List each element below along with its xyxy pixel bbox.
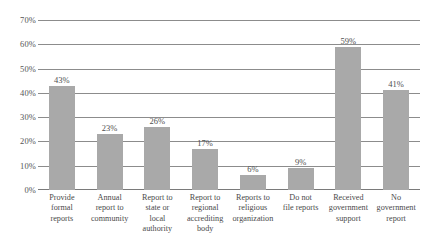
- x-axis-tick-label-line: community: [86, 214, 134, 224]
- y-axis-tick-label: 20%: [2, 137, 36, 146]
- bar[interactable]: [192, 149, 218, 190]
- y-axis-tick-label: 60%: [2, 40, 36, 49]
- bar-value-label: 9%: [295, 158, 306, 167]
- bar-chart: 0%10%20%30%40%50%60%70% 43%23%26%17%6%9%…: [0, 0, 439, 250]
- y-axis-tick-label: 0%: [2, 186, 36, 195]
- bar[interactable]: [288, 168, 314, 190]
- bar-slot: 9%: [277, 20, 325, 190]
- y-axis-tick-label: 50%: [2, 65, 36, 74]
- x-axis-tick-label: Nogovernmentreport: [372, 193, 420, 224]
- x-axis-tick-label-line: No: [372, 193, 420, 203]
- x-axis-tick-label: Report toregionalaccreditingbody: [181, 193, 229, 235]
- y-axis-tick-label: 30%: [2, 113, 36, 122]
- x-axis-tick-label-line: religious: [229, 203, 277, 213]
- x-axis-tick-label-line: Report to: [181, 193, 229, 203]
- bar[interactable]: [240, 175, 266, 190]
- y-axis-tick-label: 70%: [2, 16, 36, 25]
- x-axis-tick-label-line: support: [325, 214, 373, 224]
- bar-value-label: 41%: [388, 80, 404, 89]
- bar-slot: 43%: [38, 20, 86, 190]
- x-axis-tick-label-line: government: [325, 203, 373, 213]
- x-axis-tick-label-line: report to: [86, 203, 134, 213]
- bar-slot: 59%: [325, 20, 373, 190]
- x-axis-tick-label-line: local: [134, 214, 182, 224]
- bar-value-label: 17%: [197, 139, 213, 148]
- x-axis-tick-label-line: accrediting: [181, 214, 229, 224]
- x-axis-tick-label: Annualreport tocommunity: [86, 193, 134, 224]
- bar[interactable]: [383, 90, 409, 190]
- bar-value-label: 59%: [341, 37, 357, 46]
- x-axis-tick-label-line: report: [372, 214, 420, 224]
- bar[interactable]: [335, 47, 361, 190]
- x-axis-tick-label-line: Do not: [277, 193, 325, 203]
- x-axis-tick-label-line: Received: [325, 193, 373, 203]
- bar-slot: 41%: [372, 20, 420, 190]
- x-axis-tick-label-line: regional: [181, 203, 229, 213]
- x-axis-tick-label: Do notfile reports: [277, 193, 325, 214]
- bars-container: 43%23%26%17%6%9%59%41%: [38, 20, 420, 190]
- bar-slot: 23%: [86, 20, 134, 190]
- x-axis-tick-label-line: file reports: [277, 203, 325, 213]
- x-axis-tick-label-line: authority: [134, 224, 182, 234]
- x-axis-tick-label-line: government: [372, 203, 420, 213]
- bar-slot: 6%: [229, 20, 277, 190]
- y-axis-tick-label: 10%: [2, 162, 36, 171]
- x-axis-tick-label-line: reports: [38, 214, 86, 224]
- x-axis-tick-label-line: Report to: [134, 193, 182, 203]
- bar-value-label: 23%: [102, 124, 118, 133]
- bar[interactable]: [97, 134, 123, 190]
- bar-slot: 17%: [181, 20, 229, 190]
- y-axis-tick-label: 40%: [2, 89, 36, 98]
- x-axis-tick-label: Reports toreligiousorganization: [229, 193, 277, 224]
- x-axis-tick-label-line: state or: [134, 203, 182, 213]
- x-axis-tick-label: Receivedgovernmentsupport: [325, 193, 373, 224]
- bar[interactable]: [144, 127, 170, 190]
- x-axis-tick-label: Report tostate orlocalauthority: [134, 193, 182, 235]
- bar-slot: 26%: [134, 20, 182, 190]
- bar-value-label: 43%: [54, 76, 70, 85]
- x-axis-tick-label-line: Annual: [86, 193, 134, 203]
- x-axis-tick-label-line: body: [181, 224, 229, 234]
- bar[interactable]: [49, 86, 75, 190]
- x-axis-tick-label-line: organization: [229, 214, 277, 224]
- x-axis-tick-label-line: Reports to: [229, 193, 277, 203]
- bar-value-label: 26%: [150, 117, 166, 126]
- bar-value-label: 6%: [247, 165, 258, 174]
- y-axis: 0%10%20%30%40%50%60%70%: [0, 20, 36, 190]
- x-axis-tick-label: Provideformalreports: [38, 193, 86, 224]
- x-axis-tick-label-line: Provide: [38, 193, 86, 203]
- x-axis-tick-label-line: formal: [38, 203, 86, 213]
- x-axis-category-labels: ProvideformalreportsAnnualreport tocommu…: [38, 193, 420, 249]
